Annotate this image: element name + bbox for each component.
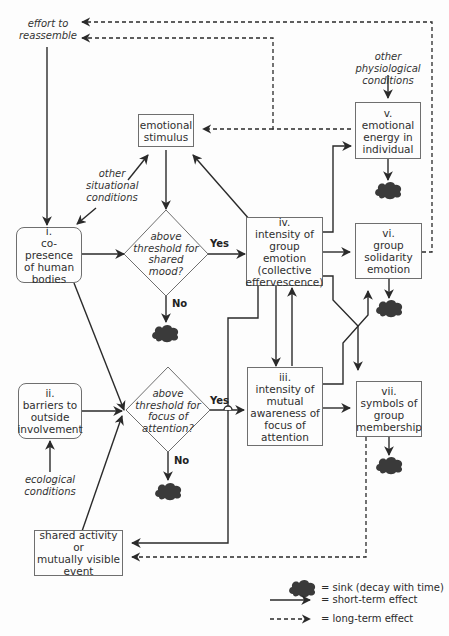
focus-yes-label: Yes (210, 395, 229, 406)
sink-cloud-icon (155, 483, 181, 500)
focus-no-label: No (174, 455, 189, 466)
shared-mood-no-label: No (172, 298, 187, 309)
mutual-awareness-box: iii. intensity of mutual awareness of fo… (247, 367, 323, 446)
co-presence-box: i. co-presence of human bodies (16, 227, 82, 283)
shared-activity-box: shared activity or mutually visible even… (34, 530, 123, 576)
sink-cloud-icon (376, 300, 402, 317)
sink-cloud-icon (375, 182, 401, 199)
effort-to-reassemble-label: effort to reassemble (18, 18, 78, 42)
barriers-box: ii. barriers to outside involvement (18, 383, 82, 439)
other-situational-conditions-label: other situational conditions (86, 168, 138, 204)
focus-of-attention-decision: above threshold for focus of attention? (132, 388, 204, 434)
legend-long-term: = long-term effect (321, 613, 413, 624)
sink-cloud-icon (376, 457, 402, 474)
emotional-stimulus-box: emotional stimulus (138, 114, 194, 147)
legend-short-term: = short-term effect (321, 594, 417, 605)
ecological-conditions-label: ecological conditions (22, 474, 78, 498)
symbols-box: vii. symbols of group membership (356, 381, 422, 437)
interaction-ritual-diagram: effort to reassemble emotional stimulus … (0, 0, 449, 636)
shared-mood-decision: above threshold for shared mood? (130, 231, 202, 277)
shared-mood-yes-label: Yes (210, 238, 229, 249)
legend-sink: = sink (decay with time) (321, 582, 444, 593)
group-solidarity-box: vi. group solidarity emotion (355, 223, 422, 279)
other-physiological-conditions-label: other physiological conditions (342, 51, 434, 87)
sink-cloud-icon (152, 325, 178, 342)
group-emotion-box: iv. intensity of group emotion (collecti… (246, 217, 323, 286)
emotional-energy-box: v. emotional energy in individual (355, 102, 421, 159)
